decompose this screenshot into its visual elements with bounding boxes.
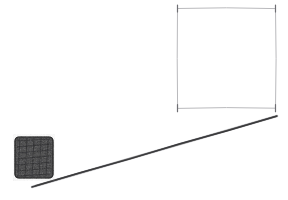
shaded-block [15,137,53,178]
incline-line-stroke-overlay [36,116,277,186]
incline-line [32,116,277,187]
diagram-svg [0,0,288,200]
square-edge-right [276,9,277,109]
square-outline [177,8,276,109]
square-edge-bottom [178,108,276,109]
square-edge-top [178,8,276,9]
square-corner-marks [178,5,276,112]
sketch-canvas [0,0,288,200]
